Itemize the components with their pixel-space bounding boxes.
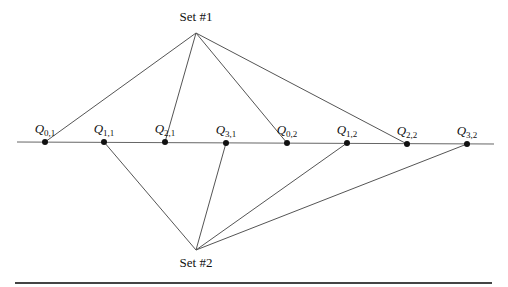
- edge-set2-q12: [196, 143, 347, 250]
- point-q02: [284, 140, 290, 146]
- point-q12: [344, 140, 350, 146]
- label-q21: Q2,1: [155, 122, 176, 138]
- edge-set2-q11: [104, 142, 196, 250]
- edge-set1-q02: [196, 33, 287, 143]
- point-q31: [223, 140, 229, 146]
- label-q22: Q2,2: [397, 124, 418, 140]
- point-q11: [101, 139, 107, 145]
- set-1-label: Set #1: [180, 10, 213, 23]
- point-q01: [42, 139, 48, 145]
- edge-set2-q32: [196, 144, 467, 250]
- set-2-label: Set #2: [180, 256, 213, 269]
- label-q11: Q1,1: [94, 122, 115, 138]
- edge-set2-q31: [196, 143, 226, 250]
- diagram-canvas: [0, 0, 508, 287]
- label-q32: Q3,2: [457, 124, 478, 140]
- label-q12: Q1,2: [337, 123, 358, 139]
- label-q02: Q0,2: [277, 123, 298, 139]
- timeline-axis: [17, 142, 494, 144]
- label-q01: Q0,1: [35, 122, 56, 138]
- point-q22: [404, 141, 410, 147]
- point-q32: [464, 141, 470, 147]
- point-q21: [162, 139, 168, 145]
- label-q31: Q3,1: [216, 123, 237, 139]
